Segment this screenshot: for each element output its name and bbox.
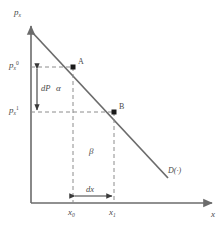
alpha-area-label: α: [56, 84, 61, 93]
point-marker-b: [112, 110, 117, 115]
y-axis-label: px: [14, 8, 21, 17]
y-axis-label-sub: x: [19, 12, 21, 18]
price-tick-high: px0: [9, 61, 19, 70]
price-tick-high-base: p: [9, 60, 14, 70]
price-tick-high-sup: 0: [16, 60, 19, 66]
price-tick-low-base: p: [9, 105, 14, 115]
x-axis-label: x: [211, 210, 215, 219]
price-tick-low: px1: [9, 106, 19, 115]
quantity-tick-x1: x1: [109, 208, 116, 217]
point-label-a: A: [78, 58, 84, 66]
point-marker-a: [71, 65, 76, 70]
beta-area-label: β: [89, 147, 93, 156]
x-axis-label-base: x: [211, 209, 215, 219]
demand-curve: [31, 31, 168, 178]
figure-canvas: [0, 0, 224, 230]
dp-label: dP: [41, 84, 50, 93]
quantity-tick-x0: x0: [68, 208, 75, 217]
quantity-tick-x1-sub: 1: [113, 212, 116, 218]
demand-curve-figure: px x px0 px1 x0 x1 A B dP dx α β D(·): [0, 0, 224, 230]
price-tick-low-sup: 1: [16, 105, 19, 111]
y-axis-label-base: p: [14, 7, 19, 17]
quantity-tick-x0-sub: 0: [72, 212, 75, 218]
demand-curve-label: D(·): [168, 167, 181, 175]
point-label-b: B: [119, 103, 124, 111]
dx-label: dx: [86, 185, 94, 194]
